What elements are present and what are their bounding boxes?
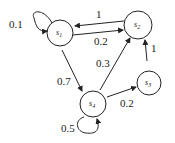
edge-s2-s1: 1 xyxy=(75,8,124,26)
edge-s1-self: 0.1 xyxy=(9,12,52,31)
node-s2: s2 xyxy=(124,11,152,39)
node-s1: s1 xyxy=(47,20,73,46)
edge-s3-s2: 1 xyxy=(145,40,157,61)
svg-text:0.5: 0.5 xyxy=(61,122,75,134)
svg-text:0.1: 0.1 xyxy=(9,18,23,30)
svg-text:s3: s3 xyxy=(145,78,151,88)
svg-text:s4: s4 xyxy=(89,99,95,109)
markov-chain-diagram: s1 s2 s3 s4 0.1 1 0.2 0.7 0.3 1 0.2 xyxy=(0,0,175,143)
svg-text:s1: s1 xyxy=(56,28,62,38)
svg-text:s2: s2 xyxy=(134,20,140,30)
edge-s4-s3: 0.2 xyxy=(107,87,136,109)
svg-text:0.2: 0.2 xyxy=(94,35,108,47)
svg-text:0.3: 0.3 xyxy=(96,57,110,69)
node-s4: s4 xyxy=(80,91,106,117)
svg-text:0.7: 0.7 xyxy=(57,75,71,87)
edge-s4-self: 0.5 xyxy=(61,117,98,134)
svg-text:1: 1 xyxy=(151,42,157,54)
svg-text:1: 1 xyxy=(96,8,102,20)
edge-s1-s2: 0.2 xyxy=(73,30,123,47)
edge-s1-s4: 0.7 xyxy=(57,50,82,91)
node-s3: s3 xyxy=(137,71,161,95)
svg-text:0.2: 0.2 xyxy=(120,97,134,109)
